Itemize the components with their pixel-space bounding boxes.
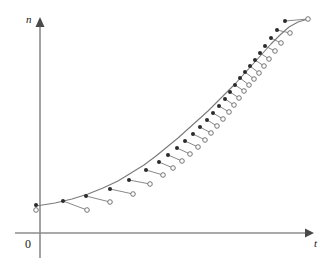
filled-circle-marker	[175, 146, 179, 150]
y-axis-label: n	[26, 14, 32, 25]
filled-circle-marker	[275, 28, 279, 32]
filled-circle-marker	[144, 168, 148, 172]
open-circle-marker	[171, 166, 176, 171]
series-connector-segment	[110, 189, 133, 194]
filled-circle-marker	[166, 153, 170, 157]
filled-circle-marker	[183, 139, 187, 143]
open-circle-marker	[108, 200, 113, 205]
series-connector-segment	[86, 196, 110, 202]
filled-circle-marker	[108, 187, 112, 191]
open-circle-marker	[161, 173, 166, 178]
filled-circle-marker	[263, 44, 267, 48]
filled-circle-marker	[238, 76, 242, 80]
open-circle-marker	[188, 152, 193, 157]
filled-circle-marker	[157, 160, 161, 164]
open-circle-marker	[257, 71, 262, 76]
filled-circle-marker	[233, 83, 237, 87]
filled-circle-marker	[243, 70, 247, 74]
open-circle-marker	[288, 31, 293, 36]
open-circle-marker	[232, 103, 237, 108]
open-circle-marker	[196, 145, 201, 150]
axes-group	[15, 17, 314, 258]
open-circle-marker	[203, 138, 208, 143]
plot-canvas	[0, 0, 331, 269]
filled-circle-marker	[283, 19, 287, 23]
filled-circle-marker	[191, 132, 195, 136]
filled-circle-marker	[217, 104, 221, 108]
open-circle-marker	[85, 208, 90, 213]
filled-circle-markers	[34, 19, 287, 207]
open-circle-marker	[252, 77, 257, 82]
open-circle-marker	[247, 83, 252, 88]
filled-circle-marker	[248, 64, 252, 68]
filled-circle-marker	[269, 36, 273, 40]
origin-label: 0	[25, 238, 31, 250]
filled-circle-marker	[34, 203, 38, 207]
open-circle-marker	[209, 131, 214, 136]
filled-circle-marker	[228, 90, 232, 94]
filled-circle-marker	[61, 199, 65, 203]
y-axis-arrow-icon	[36, 17, 45, 27]
open-circle-marker	[306, 17, 311, 22]
open-circle-marker	[180, 159, 185, 164]
open-circle-marker	[221, 117, 226, 122]
open-circle-marker	[273, 49, 278, 54]
filled-circle-marker	[223, 97, 227, 101]
filled-circle-marker	[258, 51, 262, 55]
open-circle-marker	[279, 41, 284, 46]
open-circle-marker	[131, 192, 136, 197]
figure-container: n t 0	[0, 0, 331, 269]
series-connector-segment	[129, 180, 150, 184]
x-axis-label: t	[314, 238, 317, 249]
filled-circle-marker	[84, 194, 88, 198]
open-circle-marker	[215, 124, 220, 129]
open-circle-marker	[267, 57, 272, 62]
filled-circle-marker	[253, 58, 257, 62]
open-circle-marker	[148, 182, 153, 187]
x-axis-arrow-icon	[305, 229, 314, 238]
filled-circle-marker	[127, 178, 131, 182]
series-connector-segment	[63, 201, 87, 210]
open-circle-marker	[34, 208, 39, 213]
open-circle-marker	[242, 89, 247, 94]
open-circle-marker	[237, 96, 242, 101]
filled-circle-marker	[211, 111, 215, 115]
open-circle-marker	[262, 64, 267, 69]
filled-circle-marker	[198, 125, 202, 129]
open-circle-marker	[227, 110, 232, 115]
filled-circle-marker	[205, 118, 209, 122]
